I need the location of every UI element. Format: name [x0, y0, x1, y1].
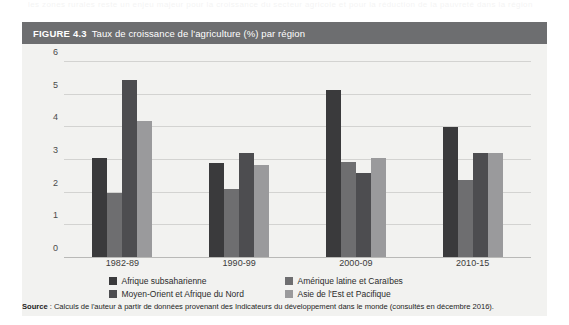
bar — [209, 163, 224, 258]
y-axis-tick-label: 2 — [53, 178, 58, 188]
legend-swatch-icon — [285, 277, 293, 285]
bar-group — [181, 62, 298, 258]
legend-row: Afrique subsaharienneAmérique latine et … — [109, 276, 461, 286]
bar-group — [64, 62, 181, 258]
figure-body: 0123456 1982-891990-992000-092010-15 Afr… — [22, 44, 547, 316]
bar — [137, 121, 152, 258]
chart-canvas: 0123456 — [64, 62, 531, 258]
legend-row: Moyen-Orient et Afrique du NordAsie de l… — [109, 289, 461, 299]
bar — [122, 80, 137, 258]
legend-label: Amérique latine et Caraïbes — [298, 276, 403, 286]
chart-legend: Afrique subsaharienneAmérique latine et … — [22, 276, 547, 299]
x-axis-tick-label: 1982-89 — [64, 258, 181, 268]
bar — [254, 165, 269, 258]
bar-group — [298, 62, 415, 258]
bar-group — [414, 62, 531, 258]
x-axis-tick-label: 2010-15 — [414, 258, 531, 268]
figure-header-bar: FIGURE 4.3 Taux de croissance de l'agric… — [22, 22, 547, 44]
source-text: : Calculs de l'auteur à partir de donnée… — [48, 302, 494, 311]
bar — [341, 162, 356, 258]
y-axis-tick-label: 4 — [53, 112, 58, 122]
bars-layer — [64, 62, 531, 258]
bar — [326, 90, 341, 258]
legend-item[interactable]: Afrique subsaharienne — [109, 276, 285, 286]
bar — [107, 193, 122, 258]
y-axis-tick-label: 3 — [53, 145, 58, 155]
figure-container: FIGURE 4.3 Taux de croissance de l'agric… — [22, 22, 547, 316]
figure-title: Taux de croissance de l'agriculture (%) … — [92, 28, 305, 39]
bar — [239, 153, 254, 258]
legend-item[interactable]: Moyen-Orient et Afrique du Nord — [109, 289, 285, 299]
legend-swatch-icon — [109, 290, 117, 298]
bar — [473, 153, 488, 258]
bar — [224, 189, 239, 258]
x-axis-tick-label: 1990-99 — [181, 258, 298, 268]
legend-item[interactable]: Amérique latine et Caraïbes — [285, 276, 461, 286]
page-body-text-fragment: les zones rurales reste un enjeu majeur … — [28, 0, 543, 10]
bar — [356, 173, 371, 258]
legend-swatch-icon — [109, 277, 117, 285]
x-axis-tick-label: 2000-09 — [298, 258, 415, 268]
y-axis-tick-label: 6 — [53, 47, 58, 57]
y-axis-tick-label: 5 — [53, 80, 58, 90]
figure-number-label: FIGURE 4.3 — [33, 28, 87, 39]
y-axis-tick-label: 1 — [53, 210, 58, 220]
legend-label: Moyen-Orient et Afrique du Nord — [122, 289, 244, 299]
legend-label: Asie de l'Est et Pacifique — [298, 289, 391, 299]
source-note: Source : Calculs de l'auteur à partir de… — [22, 302, 547, 311]
bar — [92, 158, 107, 258]
legend-item[interactable]: Asie de l'Est et Pacifique — [285, 289, 461, 299]
bar — [371, 158, 386, 258]
source-prefix: Source — [22, 302, 48, 311]
bar — [443, 127, 458, 258]
bar — [488, 153, 503, 258]
chart-plot-area: 0123456 — [22, 44, 547, 258]
y-axis-tick-label: 0 — [53, 243, 58, 253]
x-axis-tick-labels: 1982-891990-992000-092010-15 — [64, 258, 531, 268]
legend-swatch-icon — [285, 290, 293, 298]
bar — [458, 180, 473, 258]
legend-label: Afrique subsaharienne — [122, 276, 207, 286]
